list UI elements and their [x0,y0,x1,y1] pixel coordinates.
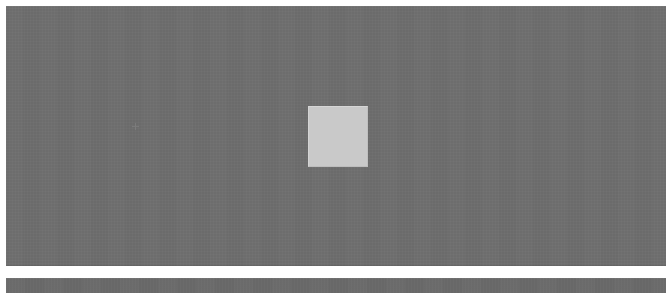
screen-capture-stage [0,0,671,293]
pointer-vertical-stroke [135,123,136,130]
primary-viewport-panel[interactable] [6,6,666,266]
content-placeholder-square[interactable] [308,106,368,167]
panel-separator-gap [0,266,671,278]
primary-panel-label [6,6,7,7]
content-placeholder-label [309,107,310,108]
secondary-viewport-panel[interactable] [6,278,666,293]
pointer-cursor-icon [132,123,139,130]
secondary-panel-label [6,278,7,279]
